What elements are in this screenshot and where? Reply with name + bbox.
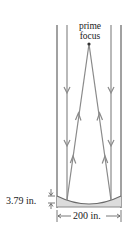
mirror-depth-label: 3.79 in. <box>6 196 36 206</box>
mirror-width-label: 200 in. <box>73 211 101 221</box>
depth-dimension <box>48 189 55 209</box>
prime-focus-point <box>87 42 90 45</box>
incoming-rays <box>64 25 114 200</box>
reflected-rays <box>67 44 111 200</box>
prime-focus-label-line1: prime <box>77 21 103 31</box>
prime-focus-label-line2: focus <box>77 31 103 41</box>
reflected-ray-left <box>67 44 89 200</box>
reflected-ray-right <box>89 44 111 200</box>
prime-focus-label: prime focus <box>77 21 103 41</box>
